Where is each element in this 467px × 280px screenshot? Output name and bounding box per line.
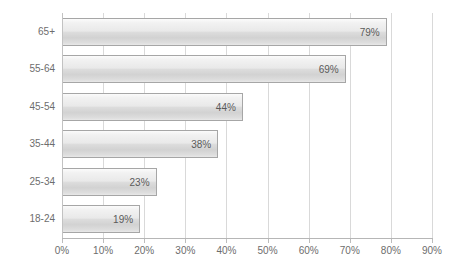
gridline-40pct [226, 13, 227, 238]
x-axis-tick-label: 70% [340, 245, 360, 256]
x-axis-tick [226, 239, 227, 243]
bar-18-24[interactable]: 19% [62, 205, 140, 233]
y-axis-label-65+: 65+ [5, 18, 55, 46]
y-axis-label-35-44: 35-44 [5, 130, 55, 158]
gridline-10pct [103, 13, 104, 238]
bar-35-44[interactable]: 38% [62, 130, 218, 158]
bar-45-54[interactable]: 44% [62, 93, 243, 121]
y-axis-label-55-64: 55-64 [5, 55, 55, 83]
x-axis-tick [103, 239, 104, 243]
gridline-60pct [309, 13, 310, 238]
bar-row: 79% [62, 18, 432, 46]
bar-data-label: 19% [113, 206, 133, 234]
gridline-30pct [185, 13, 186, 238]
x-axis-line [62, 238, 433, 239]
y-axis-label-25-34: 25-34 [5, 168, 55, 196]
x-axis-tick [432, 239, 433, 243]
gridline-20pct [144, 13, 145, 238]
bar-data-label: 23% [130, 169, 150, 197]
x-axis-tick-label: 40% [216, 245, 236, 256]
bar-data-label: 69% [319, 56, 339, 84]
x-axis-tick [391, 239, 392, 243]
y-axis-label-18-24: 18-24 [5, 205, 55, 233]
y-axis-category-labels: 65+55-6445-5435-4425-3418-24 [0, 13, 55, 238]
bar-55-64[interactable]: 69% [62, 55, 346, 83]
x-axis-tick [185, 239, 186, 243]
x-axis-tick-label: 80% [381, 245, 401, 256]
x-axis-tick-label: 20% [134, 245, 154, 256]
x-axis-tick-label: 0% [55, 245, 69, 256]
x-axis-tick-label: 50% [258, 245, 278, 256]
x-axis-tick [144, 239, 145, 243]
bar-row: 23% [62, 168, 432, 196]
bar-row: 69% [62, 55, 432, 83]
x-axis-tick [350, 239, 351, 243]
bar-row: 44% [62, 93, 432, 121]
x-axis-tick-label: 90% [422, 245, 442, 256]
gridline-50pct [268, 13, 269, 238]
gridline-90pct [432, 13, 433, 238]
x-axis-tick [309, 239, 310, 243]
bar-25-34[interactable]: 23% [62, 168, 157, 196]
y-axis-label-45-54: 45-54 [5, 93, 55, 121]
x-axis-tick-label: 60% [299, 245, 319, 256]
bar-data-label: 79% [360, 19, 380, 47]
bar-data-label: 44% [216, 94, 236, 122]
x-axis-tick [62, 239, 63, 243]
bar-row: 38% [62, 130, 432, 158]
gridline-80pct [391, 13, 392, 238]
gridline-70pct [350, 13, 351, 238]
bar-data-label: 38% [191, 131, 211, 159]
plot-area: 79%69%44%38%23%19% [62, 13, 432, 238]
x-axis-tick-label: 30% [175, 245, 195, 256]
bar-chart: 79%69%44%38%23%19% 65+55-6445-5435-4425-… [0, 0, 467, 280]
x-axis-tick [268, 239, 269, 243]
bar-65+[interactable]: 79% [62, 18, 387, 46]
bar-row: 19% [62, 205, 432, 233]
y-axis-line [62, 13, 63, 239]
x-axis-tick-label: 10% [93, 245, 113, 256]
